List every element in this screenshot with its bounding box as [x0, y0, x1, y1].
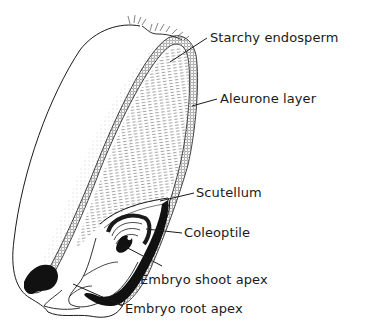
- label-embryo-shoot-apex: Embryo shoot apex: [140, 273, 268, 286]
- label-aleurone-layer: Aleurone layer: [220, 92, 316, 105]
- grain-diagram: Starchy endosperm Aleurone layer Scutell…: [0, 0, 367, 329]
- embryo-tip-dark: [24, 265, 58, 294]
- coleoptile-arcs: [108, 216, 149, 244]
- embryo-shoot-apex-shape: [116, 236, 132, 253]
- label-scutellum: Scutellum: [196, 186, 262, 199]
- label-coleoptile: Coleoptile: [184, 226, 250, 239]
- label-embryo-root-apex: Embryo root apex: [125, 302, 243, 315]
- label-starchy-endosperm: Starchy endosperm: [210, 31, 339, 44]
